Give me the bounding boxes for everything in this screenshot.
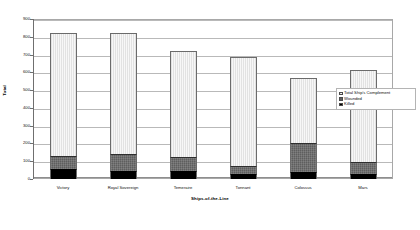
y-tick-label: 400: [6, 106, 30, 110]
bar-segment-total: [110, 33, 137, 154]
wounded-swatch-icon: [339, 97, 343, 101]
x-tick-label: Mars: [323, 185, 403, 190]
legend-item: Killed: [339, 102, 413, 108]
bar-segment-killed: [230, 174, 257, 179]
killed-swatch-icon: [339, 103, 343, 107]
bar-segment-total: [50, 33, 77, 155]
bar-segment-wounded: [230, 166, 257, 175]
stacked-bar-chart: 0100200300400500600700800900 Total Victo…: [0, 0, 420, 230]
bar-segment-total: [170, 51, 197, 157]
bar-group: [50, 33, 77, 179]
bar-group: [170, 51, 197, 179]
y-tick-label: 900: [6, 17, 30, 21]
y-tick-label: 600: [6, 70, 30, 74]
bar-segment-total: [290, 78, 317, 144]
y-tick-label: 700: [6, 53, 30, 57]
bar-segment-wounded: [50, 156, 77, 169]
legend-label: Total Ship's Complement: [344, 91, 390, 95]
x-axis-title: Ships-of-the-Line: [0, 196, 420, 201]
y-tick-label: 200: [6, 141, 30, 145]
y-tick-mark: [30, 179, 33, 180]
chart-legend: Total Ship's Complement Wounded Killed: [336, 88, 416, 110]
bar-segment-killed: [110, 171, 137, 179]
y-tick-label: 100: [6, 159, 30, 163]
total-swatch-icon: [339, 92, 343, 96]
y-tick-label: 800: [6, 35, 30, 39]
bar-segment-wounded: [290, 143, 317, 171]
bar-segment-killed: [290, 172, 317, 179]
bar-group: [230, 57, 257, 179]
y-axis-title: Total: [2, 85, 7, 96]
bar-group: [290, 78, 317, 180]
bar-segment-wounded: [350, 162, 377, 174]
y-tick-label: 500: [6, 88, 30, 92]
bar-segment-total: [230, 57, 257, 166]
bar-segment-wounded: [110, 154, 137, 171]
bar-segment-total: [350, 70, 377, 161]
y-tick-label: 0: [6, 177, 30, 181]
y-tick-label: 300: [6, 124, 30, 128]
bar-segment-killed: [350, 174, 377, 179]
bar-group: [350, 70, 377, 179]
bar-segment-killed: [170, 171, 197, 179]
legend-label: Killed: [344, 102, 354, 106]
bar-group: [110, 33, 137, 179]
bar-segment-killed: [50, 169, 77, 179]
bar-segment-wounded: [170, 157, 197, 171]
legend-label: Wounded: [344, 97, 362, 101]
